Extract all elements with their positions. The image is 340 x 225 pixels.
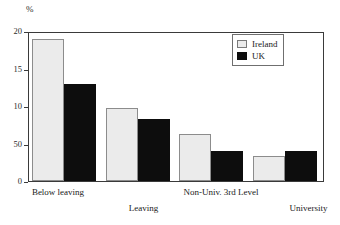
x-axis-label-2: Leaving [129, 203, 159, 213]
legend: Ireland UK [232, 34, 284, 66]
bar-group [103, 33, 177, 181]
bar-ireland [106, 108, 138, 181]
y-axis-tick-mark [24, 182, 28, 183]
x-axis-label-4: University [290, 203, 328, 213]
bar-group [29, 33, 103, 181]
y-axis-tick-mark [24, 145, 28, 146]
y-axis-unit-label: % [26, 4, 34, 14]
bar-ireland [32, 39, 64, 181]
y-axis-tick-label: 50 [0, 140, 22, 149]
y-axis-tick-mark [24, 70, 28, 71]
x-axis-label-1: Below leaving [32, 187, 84, 197]
y-axis-tick-label: 10 [0, 102, 22, 111]
y-axis-tick-label: 15 [0, 65, 22, 74]
y-axis-tick-mark [24, 32, 28, 33]
legend-label-ireland: Ireland [252, 39, 277, 49]
legend-label-uk: UK [252, 51, 265, 61]
legend-swatch-ireland-icon [237, 40, 247, 48]
x-axis-label-3: Non-Univ. 3rd Level [183, 187, 258, 197]
bar-ireland [179, 134, 211, 181]
bar-uk [138, 119, 170, 181]
bar-uk [285, 151, 317, 181]
y-axis-tick-mark [24, 107, 28, 108]
bar-chart: % 201510500 Ireland UK Below leavingLeav… [0, 0, 340, 225]
bar-uk [211, 151, 243, 181]
bar-uk [64, 84, 96, 181]
legend-swatch-uk-icon [237, 52, 247, 60]
bar-ireland [253, 156, 285, 181]
legend-item-ireland: Ireland [237, 38, 277, 50]
y-axis-tick-label: 0 [0, 177, 22, 186]
y-axis-tick-label: 20 [0, 27, 22, 36]
legend-item-uk: UK [237, 50, 277, 62]
